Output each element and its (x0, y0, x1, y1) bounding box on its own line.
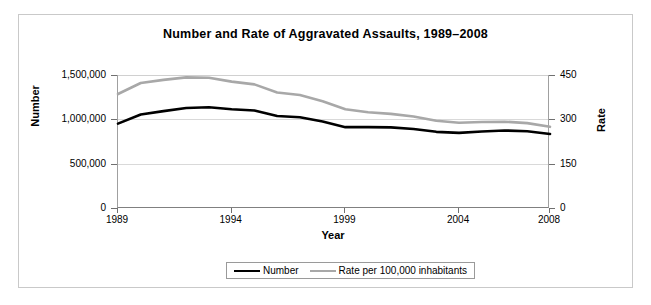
x-tick-label: 2004 (428, 214, 488, 225)
chart-figure: Number and Rate of Aggravated Assaults, … (0, 0, 651, 305)
y-axis-left-title: Number (29, 66, 41, 146)
legend-swatch-number-icon (234, 270, 260, 272)
chart-title: Number and Rate of Aggravated Assaults, … (0, 27, 651, 41)
x-axis-title: Year (117, 229, 549, 241)
y-tick-label-left: 500,000 (34, 158, 106, 169)
y-axis-right-title: Rate (595, 85, 607, 155)
y-tick-label-left: 0 (34, 202, 106, 213)
legend-swatch-rate-icon (310, 270, 336, 272)
x-tick (117, 208, 118, 213)
legend-item: Rate per 100,000 inhabitants (310, 265, 467, 276)
y-tick-right (549, 164, 555, 165)
line-series-rate (118, 77, 550, 126)
y-tick-label-right: 300 (560, 113, 600, 124)
plot-area (117, 75, 549, 208)
y-tick-label-right: 0 (560, 202, 600, 213)
legend-label: Rate per 100,000 inhabitants (339, 265, 467, 276)
x-tick (344, 208, 345, 213)
x-tick-label: 1999 (314, 214, 374, 225)
chart-legend: NumberRate per 100,000 inhabitants (226, 262, 475, 279)
y-tick-right (549, 119, 555, 120)
y-tick-label-left: 1,500,000 (34, 69, 106, 80)
legend-item: Number (234, 265, 299, 276)
x-tick (231, 208, 232, 213)
x-tick-label: 1989 (87, 214, 147, 225)
y-tick-right (549, 75, 555, 76)
x-tick-label: 1994 (201, 214, 261, 225)
x-tick (549, 208, 550, 213)
y-tick-left (111, 75, 117, 76)
y-tick-left (111, 164, 117, 165)
y-tick-left (111, 119, 117, 120)
x-tick (458, 208, 459, 213)
y-tick-label-left: 1,000,000 (34, 113, 106, 124)
y-tick-label-right: 450 (560, 69, 600, 80)
legend-label: Number (263, 265, 299, 276)
y-tick-label-right: 150 (560, 158, 600, 169)
x-tick-label: 2008 (519, 214, 579, 225)
series-lines (118, 75, 550, 208)
